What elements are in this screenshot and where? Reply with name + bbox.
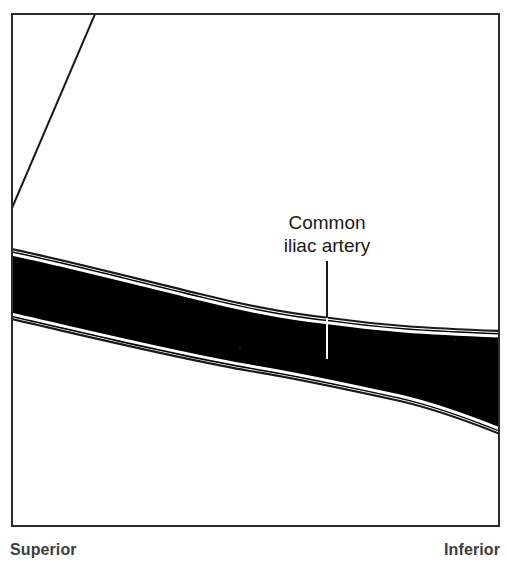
orientation-label-superior: Superior xyxy=(10,541,77,559)
angiogram-image: Common iliac artery xyxy=(0,0,507,566)
annotation-label-line2: iliac artery xyxy=(284,235,371,256)
annotation-label-line1: Common xyxy=(288,212,365,233)
figure-root: Common iliac artery Superior Inferior xyxy=(0,0,507,566)
image-speckle-artifact xyxy=(238,346,241,349)
image-speckle-artifact xyxy=(453,338,456,341)
orientation-label-inferior: Inferior xyxy=(444,541,500,559)
